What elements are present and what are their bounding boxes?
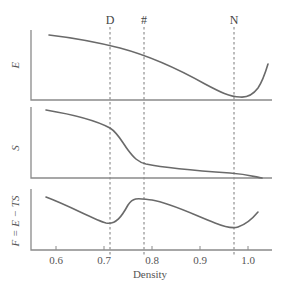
marker-label-d: D	[106, 13, 115, 27]
free-energy-curve	[46, 197, 258, 228]
panel-energy: E	[9, 30, 272, 100]
energy-axes	[31, 30, 272, 100]
panel-entropy: S	[9, 107, 272, 178]
tick-label-0-7: 0.7	[97, 254, 111, 266]
entropy-y-label: S	[9, 145, 21, 151]
tick-label-0-9: 0.9	[193, 254, 207, 266]
panel-free-energy: F = E − TS	[9, 189, 272, 250]
free-energy-axes	[31, 189, 272, 250]
energy-curve	[49, 35, 268, 97]
tick-label-0-6: 0.6	[49, 254, 63, 266]
entropy-curve	[46, 110, 262, 178]
entropy-axes	[31, 107, 272, 178]
x-axis-ticks: 0.6 0.7 0.8 0.9 1.0	[49, 246, 255, 266]
density-energy-entropy-chart: D # N E S F = E − TS 0.6 0.7 0.8 0.9 1.0…	[0, 0, 285, 289]
free-energy-y-label: F = E − TS	[9, 195, 21, 247]
marker-label-n: N	[230, 13, 239, 27]
tick-label-0-8: 0.8	[145, 254, 159, 266]
x-axis-label: Density	[133, 268, 168, 280]
tick-label-1-0: 1.0	[241, 254, 255, 266]
energy-y-label: E	[9, 61, 21, 69]
marker-label-hash: #	[141, 13, 147, 27]
